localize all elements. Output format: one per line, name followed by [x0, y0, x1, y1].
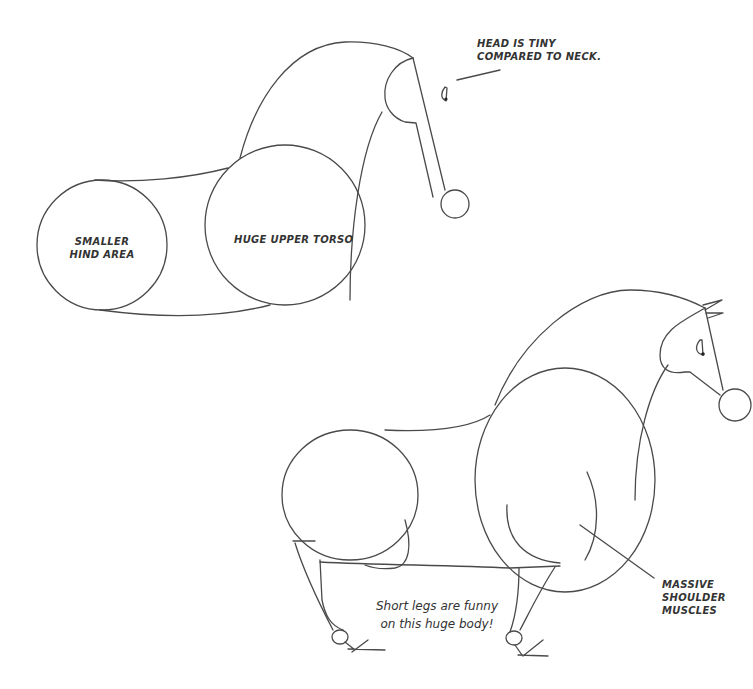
- eye-pupil: [444, 97, 447, 100]
- back-line: [385, 415, 490, 430]
- head-shape: [660, 308, 720, 395]
- ear-shape: [706, 313, 723, 318]
- short-legs-caption: Short legs are funny on this huge body!: [372, 597, 502, 633]
- back-line: [95, 168, 228, 181]
- belly-line: [320, 562, 560, 568]
- neck-top-line: [495, 290, 705, 405]
- torso-circle-shape: [475, 368, 655, 592]
- illustration-page: HEAD IS TINY COMPARED TO NECK. SMALLER H…: [0, 0, 753, 689]
- neck-throat-line: [635, 365, 668, 500]
- hind-area-note: SMALLER HIND AREA: [62, 235, 142, 261]
- upper-torso-note: HUGE UPPER TORSO: [234, 233, 353, 246]
- top-horse-construction: [37, 42, 500, 316]
- front-fetlock-circle: [506, 631, 522, 645]
- shoulder-pointer-line: [580, 525, 654, 578]
- torso-circle-shape: [205, 145, 365, 305]
- belly-line: [100, 305, 270, 315]
- head-size-note: HEAD IS TINY COMPARED TO NECK.: [477, 37, 601, 63]
- shoulder-muscles-note: MASSIVE SHOULDER MUSCLES: [662, 578, 726, 617]
- muzzle-circle-shape: [441, 190, 469, 218]
- front-leg-line: [510, 568, 519, 632]
- head-pointer-line: [457, 70, 500, 80]
- shoulder-muscle-curve: [507, 505, 560, 563]
- muzzle-circle-shape: [719, 389, 751, 421]
- neck-top-line: [240, 42, 413, 158]
- horse-sketch-drawing: [0, 0, 753, 689]
- hind-hoof-lines: [345, 640, 385, 652]
- shoulder-muscle-curve: [585, 472, 597, 560]
- hind-thigh-curve: [365, 520, 409, 569]
- ear-shape: [703, 300, 722, 310]
- face-line: [705, 308, 723, 390]
- eye-pupil: [701, 352, 705, 356]
- front-leg-line: [520, 567, 555, 630]
- hind-leg-line: [320, 560, 343, 630]
- neck-throat-line: [350, 112, 382, 300]
- head-shape: [385, 58, 433, 197]
- face-line: [413, 58, 445, 190]
